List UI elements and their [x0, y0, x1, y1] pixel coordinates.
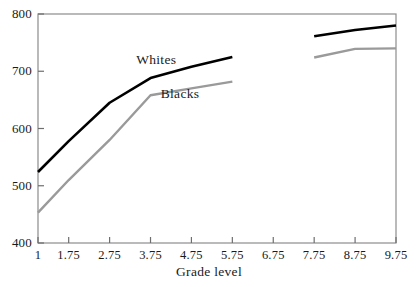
chart-figure: 400500600700800 11.752.753.754.755.756.7… — [0, 0, 418, 287]
y-tick-label: 400 — [0, 236, 32, 249]
plot-frame — [38, 14, 396, 243]
x-axis-ticks — [38, 237, 396, 243]
series-lines — [38, 25, 396, 212]
series-line-blacks-seg1 — [314, 48, 396, 57]
series-label-blacks: Blacks — [161, 87, 200, 101]
series-label-whites: Whites — [136, 53, 176, 67]
y-tick-label: 500 — [0, 179, 32, 192]
y-tick-label: 700 — [0, 64, 32, 77]
series-line-whites-seg1 — [314, 25, 396, 36]
series-line-whites-seg0 — [38, 57, 232, 172]
series-line-blacks-seg0 — [38, 82, 232, 213]
x-tick-label: 9.75 — [371, 249, 418, 262]
x-axis-title: Grade level — [0, 264, 418, 280]
y-tick-label: 600 — [0, 122, 32, 135]
chart-plot-area — [0, 0, 418, 287]
y-tick-label: 800 — [0, 7, 32, 20]
